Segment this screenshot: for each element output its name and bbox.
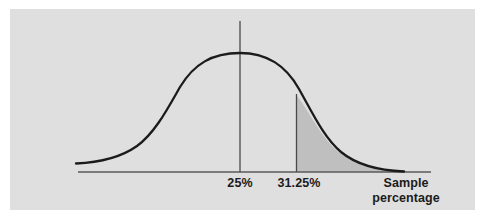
figure-container: 25% 31.25% Sample percentage — [0, 0, 485, 219]
x-axis-title-line1: Sample — [383, 176, 428, 190]
x-tick-label-mean: 25% — [212, 176, 268, 191]
x-axis-title-line2: percentage — [360, 191, 452, 206]
tail-shaded-region — [297, 95, 405, 172]
x-axis-title: Sample percentage — [360, 176, 452, 206]
x-tick-label-cutoff: 31.25% — [266, 176, 332, 191]
